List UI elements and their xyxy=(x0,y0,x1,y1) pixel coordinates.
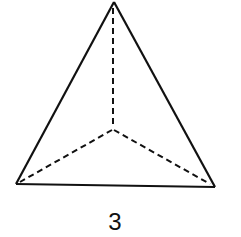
hidden-edge-center-left xyxy=(20,130,112,182)
tetrahedron-diagram xyxy=(0,0,241,237)
edge-apex-right xyxy=(114,2,215,187)
edge-base xyxy=(16,184,215,187)
hidden-edges xyxy=(20,8,210,184)
hidden-edge-center-right xyxy=(114,130,210,184)
figure-label: 3 xyxy=(0,207,230,237)
visible-edges xyxy=(16,2,215,187)
